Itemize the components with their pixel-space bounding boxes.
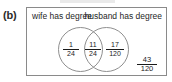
- fraction-numerator: 1: [63, 41, 79, 50]
- venn-diagram-figure: (b) wife has degree husband has degree 1…: [0, 0, 172, 82]
- region-value-husband-only: 17 120: [106, 41, 124, 58]
- region-value-neither: 43 120: [137, 56, 157, 73]
- universal-set-frame: wife has degree husband has degree 1 24 …: [26, 7, 167, 76]
- set-label-husband: husband has degree: [84, 11, 162, 21]
- part-label: (b): [3, 9, 16, 21]
- fraction-numerator: 17: [106, 41, 124, 50]
- fraction-denominator: 24: [63, 50, 79, 58]
- fraction-denominator: 24: [85, 50, 101, 58]
- fraction-denominator: 120: [106, 50, 124, 58]
- region-value-wife-only: 1 24: [63, 41, 79, 58]
- scan-artifact-strip: [60, 0, 115, 3]
- fraction-denominator: 120: [137, 65, 157, 73]
- region-value-both: 11 24: [85, 41, 101, 58]
- set-label-wife: wife has degree: [32, 11, 92, 21]
- fraction-numerator: 11: [85, 41, 101, 50]
